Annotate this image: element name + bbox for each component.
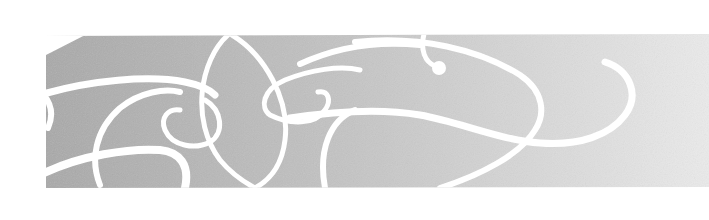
swirl-ornament-icon [0, 0, 709, 220]
decorative-banner [0, 0, 709, 220]
